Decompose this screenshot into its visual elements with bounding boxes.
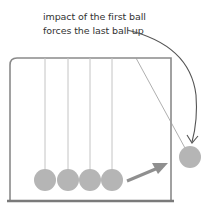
- motion-arrow-shaft: [127, 168, 158, 181]
- string-lifted: [136, 58, 185, 148]
- ball: [79, 169, 101, 191]
- ball: [34, 169, 56, 191]
- newtons-cradle-diagram: [0, 0, 212, 214]
- ball: [57, 169, 79, 191]
- ball: [101, 169, 123, 191]
- lifted-ball: [179, 146, 201, 168]
- annotation-curve-arrow: [127, 30, 197, 142]
